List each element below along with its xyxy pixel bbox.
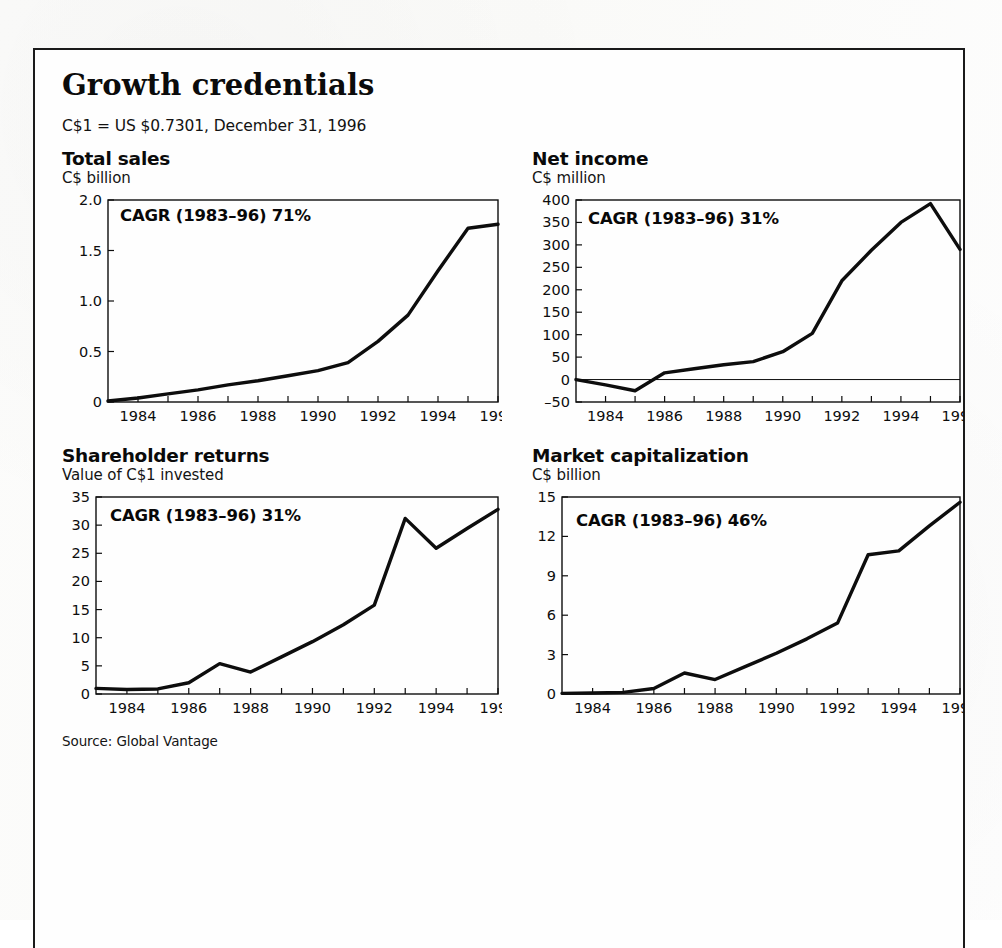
plot-shareholder-returns: 0510152025303519841986198819901992199419… [62,489,524,724]
x-axis-tick-label: 1996 [942,408,964,424]
plot-frame [576,200,960,402]
cagr-annotation-shareholder-returns: CAGR (1983–96) 31% [110,506,301,525]
x-axis-tick-label: 1984 [587,408,624,424]
y-axis-tick-label: 10 [72,630,90,646]
y-axis-tick-label: 0 [81,686,90,702]
y-axis-tick-label: 300 [542,237,570,253]
y-axis-tick-label: 100 [542,327,570,343]
y-axis-tick-label: 20 [72,574,90,590]
x-axis-tick-label: 1994 [880,700,917,716]
y-axis-tick-label: 150 [542,305,570,321]
x-axis-tick-label: 1984 [120,408,157,424]
y-axis-tick-label: 400 [542,192,570,208]
y-axis-tick-label: 3 [547,647,556,663]
y-axis-tick-label: 2.0 [79,192,102,208]
y-axis-tick-label: 250 [542,260,570,276]
chart-title-shareholder-returns: Shareholder returns [62,446,524,467]
y-axis-tick-label: –50 [544,394,570,410]
x-axis-tick-label: 1990 [758,700,795,716]
y-axis-tick-label: 0 [547,686,556,702]
chart-subtitle-total-sales: C$ billion [62,170,524,187]
cagr-annotation-total-sales: CAGR (1983–96) 71% [120,206,311,225]
x-axis-tick-label: 1992 [823,408,860,424]
y-axis-tick-label: 1.0 [79,293,102,309]
x-axis-tick-label: 1990 [300,408,337,424]
y-axis-tick-label: 15 [538,489,556,505]
x-axis-tick-label: 1996 [480,700,502,716]
y-axis-tick-label: 0.5 [79,344,102,360]
chart-subtitle-market-capitalization: C$ billion [532,467,964,484]
x-axis-tick-label: 1988 [705,408,742,424]
chart-title-market-capitalization: Market capitalization [532,446,964,467]
x-axis-tick-label: 1986 [646,408,683,424]
y-axis-tick-label: 5 [81,658,90,674]
plot-total-sales: 00.51.01.52.0198419861988199019921994199… [62,192,524,432]
data-series-line [96,510,498,690]
y-axis-tick-label: 35 [72,489,90,505]
plot-frame [96,497,498,694]
x-axis-tick-label: 1984 [574,700,611,716]
x-axis-tick-label: 1994 [418,700,455,716]
x-axis-tick-label: 1992 [819,700,856,716]
y-axis-tick-label: 6 [547,608,556,624]
chart-svg: 00.51.01.52.0198419861988199019921994199… [62,192,502,432]
y-axis-tick-label: 1.5 [79,243,102,259]
cagr-annotation-market-capitalization: CAGR (1983–96) 46% [576,511,767,530]
x-axis-tick-label: 1986 [635,700,672,716]
chart-title-net-income: Net income [532,149,964,170]
y-axis-tick-label: 25 [72,546,90,562]
x-axis-tick-label: 1990 [294,700,331,716]
x-axis-tick-label: 1994 [420,408,457,424]
x-axis-tick-label: 1996 [480,408,502,424]
exchange-rate-note: C$1 = US $0.7301, December 31, 1996 [62,117,937,135]
chart-grid: Total sales C$ billion 00.51.01.52.01984… [62,149,937,724]
x-axis-tick-label: 1994 [882,408,919,424]
x-axis-tick-label: 1988 [697,700,734,716]
data-series-line [108,225,498,402]
x-axis-tick-label: 1990 [764,408,801,424]
x-axis-tick-label: 1992 [360,408,397,424]
y-axis-tick-label: 15 [72,602,90,618]
y-axis-tick-label: 30 [72,518,90,534]
chart-subtitle-shareholder-returns: Value of C$1 invested [62,467,524,484]
x-axis-tick-label: 1992 [356,700,393,716]
panel-shareholder-returns: Shareholder returns Value of C$1 investe… [62,446,524,724]
y-axis-tick-label: 9 [547,568,556,584]
y-axis-tick-label: 0 [561,372,570,388]
x-axis-tick-label: 1986 [180,408,217,424]
source-note: Source: Global Vantage [62,733,937,749]
x-axis-tick-label: 1986 [170,700,207,716]
panel-market-capitalization: Market capitalization C$ billion 0369121… [532,446,964,724]
y-axis-tick-label: 200 [542,282,570,298]
x-axis-tick-label: 1996 [942,700,964,716]
exhibit-frame: Growth credentials C$1 = US $0.7301, Dec… [33,48,965,948]
chart-title-total-sales: Total sales [62,149,524,170]
panel-total-sales: Total sales C$ billion 00.51.01.52.01984… [62,149,524,432]
x-axis-tick-label: 1988 [232,700,269,716]
panel-net-income: Net income C$ million –50050100150200250… [532,149,964,432]
plot-net-income: –500501001502002503003504001984198619881… [532,192,964,432]
y-axis-tick-label: 12 [538,529,556,545]
cagr-annotation-net-income: CAGR (1983–96) 31% [588,209,779,228]
y-axis-tick-label: 50 [552,350,570,366]
exhibit-title: Growth credentials [62,70,937,100]
plot-market-capitalization: 036912151984198619881990199219941996 CAG… [532,489,964,724]
data-series-line [562,503,960,694]
chart-svg: –500501001502002503003504001984198619881… [532,192,964,432]
x-axis-tick-label: 1984 [108,700,145,716]
chart-subtitle-net-income: C$ million [532,170,964,187]
y-axis-tick-label: 350 [542,215,570,231]
y-axis-tick-label: 0 [93,394,102,410]
x-axis-tick-label: 1988 [240,408,277,424]
data-series-line [576,204,960,391]
